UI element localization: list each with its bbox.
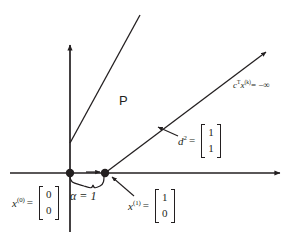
- x0-vector: 0 0: [35, 186, 63, 220]
- direction-vector: 1 1: [197, 124, 225, 158]
- x0-label: x(0) = 0 0: [12, 186, 63, 220]
- x1-superscript: (1): [133, 199, 141, 206]
- x1-label: x(1) = 1 0: [128, 189, 179, 223]
- x0-vector-cell-0: 0: [46, 187, 52, 203]
- unbounded-lp-figure: P cTx(k)= −∞ d2 = 1 1 x(0) = 0 0 α =: [0, 0, 295, 243]
- x0-point: [66, 169, 74, 177]
- bracket-right: [55, 186, 59, 220]
- direction-vector-cell-0: 1: [208, 125, 214, 141]
- x0-superscript: (0): [17, 196, 25, 203]
- x1-point: [101, 169, 109, 177]
- x1-vector-cell-1: 0: [162, 206, 168, 222]
- x1-equals: =: [143, 200, 149, 211]
- x1-vector-cell-0: 1: [162, 190, 168, 206]
- step-brace: [70, 176, 104, 188]
- bracket-right: [171, 189, 175, 223]
- steep-cone-edge: [70, 15, 140, 143]
- objective-value-label: cTx(k)= −∞: [233, 80, 270, 90]
- x0-vector-cell-1: 0: [46, 203, 52, 219]
- x1-vector: 1 0: [151, 189, 179, 223]
- direction-equals: =: [189, 135, 195, 146]
- feasible-region-label: P: [119, 94, 128, 107]
- bracket-right: [217, 124, 221, 158]
- direction-vector-cell-1: 1: [208, 141, 214, 157]
- step-length-label: α = 1: [70, 190, 96, 202]
- objective-equals: = −∞: [251, 80, 270, 90]
- x0-equals: =: [27, 197, 33, 208]
- direction-vector-label: d2 = 1 1: [178, 124, 225, 158]
- direction-superscript: 2: [184, 134, 187, 141]
